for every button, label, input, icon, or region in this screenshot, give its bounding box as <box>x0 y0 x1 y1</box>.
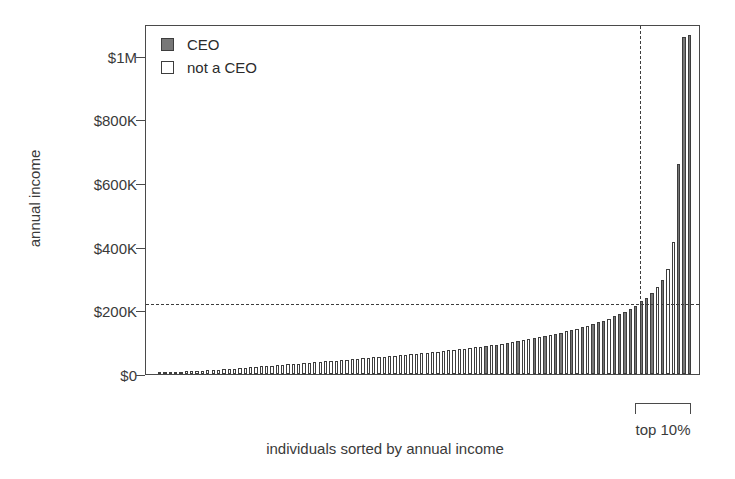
bar <box>335 361 338 374</box>
bar <box>185 371 188 374</box>
bar <box>688 35 691 374</box>
bar <box>672 242 675 374</box>
income-distribution-chart: annual income individuals sorted by annu… <box>0 0 735 479</box>
bar <box>244 368 247 374</box>
legend-item-ceo: CEO <box>161 33 257 56</box>
bar <box>575 329 578 374</box>
bar <box>458 349 461 374</box>
bar <box>297 364 300 375</box>
bar <box>222 369 225 374</box>
bar <box>158 372 161 374</box>
bar <box>623 312 626 374</box>
bar <box>195 371 198 374</box>
bar <box>233 369 236 374</box>
bar <box>586 326 589 374</box>
bar <box>511 342 514 374</box>
legend-swatch-not-ceo-icon <box>161 61 174 74</box>
bar <box>597 322 600 374</box>
bar <box>329 361 332 374</box>
bar <box>666 269 669 374</box>
bar <box>415 354 418 374</box>
income-threshold-line <box>146 304 699 305</box>
bar <box>554 334 557 374</box>
bar <box>634 306 637 374</box>
bar <box>431 352 434 374</box>
x-axis-title: individuals sorted by annual income <box>205 440 565 457</box>
bar <box>169 372 172 374</box>
bar <box>463 349 466 374</box>
bar <box>217 370 220 374</box>
plot-area: CEO not a CEO <box>145 25 700 375</box>
bar <box>452 350 455 374</box>
bar <box>201 371 204 375</box>
legend-label-not-ceo: not a CEO <box>187 59 257 76</box>
bar <box>474 347 477 374</box>
bar <box>377 357 380 374</box>
bar <box>249 367 252 374</box>
bar <box>276 365 279 374</box>
bar <box>533 338 536 374</box>
y-axis-tick-mark <box>136 120 145 121</box>
y-axis-title: annual income <box>26 119 43 279</box>
bar <box>308 363 311 374</box>
y-axis-tick-label: $200K <box>94 303 137 320</box>
y-axis-tick-label: $0 <box>120 367 137 384</box>
bar <box>409 354 412 374</box>
bar <box>506 343 509 374</box>
top-10-percent-bracket-icon <box>635 403 691 414</box>
legend-item-not-ceo: not a CEO <box>161 56 257 79</box>
bar <box>265 366 268 374</box>
bar <box>490 345 493 374</box>
bar <box>442 351 445 374</box>
bar <box>260 366 263 374</box>
bar <box>500 344 503 374</box>
bar <box>179 372 182 374</box>
bar <box>302 363 305 374</box>
bar <box>388 356 391 374</box>
bar <box>190 371 193 374</box>
bar <box>484 346 487 374</box>
y-axis-tick-label: $800K <box>94 112 137 129</box>
bar <box>613 316 616 374</box>
bar <box>522 340 525 374</box>
bar <box>565 331 568 374</box>
bar <box>420 353 423 374</box>
bar <box>163 372 166 374</box>
bar <box>393 356 396 374</box>
bar <box>495 345 498 374</box>
bar <box>228 369 231 374</box>
bar <box>656 287 659 374</box>
bar <box>351 359 354 374</box>
bar <box>447 350 450 374</box>
bar <box>383 357 386 375</box>
y-axis-tick-mark <box>136 57 145 58</box>
bar <box>286 364 289 374</box>
bar <box>682 37 685 374</box>
bar <box>345 360 348 374</box>
bar <box>479 347 482 374</box>
bar <box>356 359 359 374</box>
bar <box>238 368 241 374</box>
percentile-90-line <box>640 26 641 374</box>
y-axis-tick-labels: $0$200K$400K$600K$800K$1M <box>55 0 137 479</box>
bar <box>270 366 273 374</box>
bar <box>607 319 610 374</box>
bar <box>618 314 621 374</box>
bar <box>313 362 316 374</box>
bar <box>677 164 680 374</box>
bar <box>538 337 541 374</box>
bar <box>206 370 209 374</box>
bar <box>602 321 605 374</box>
y-axis-tick-label: $1M <box>108 48 137 65</box>
y-axis-tick-mark <box>136 311 145 312</box>
bar <box>372 357 375 374</box>
bar <box>591 324 594 374</box>
bar <box>281 365 284 374</box>
bar <box>527 339 530 374</box>
y-axis-tick-label: $600K <box>94 176 137 193</box>
top-10-percent-label: top 10% <box>612 421 714 438</box>
y-axis-tick-label: $400K <box>94 239 137 256</box>
bar <box>645 298 648 374</box>
y-axis-tick-mark <box>136 248 145 249</box>
legend-label-ceo: CEO <box>187 36 220 53</box>
